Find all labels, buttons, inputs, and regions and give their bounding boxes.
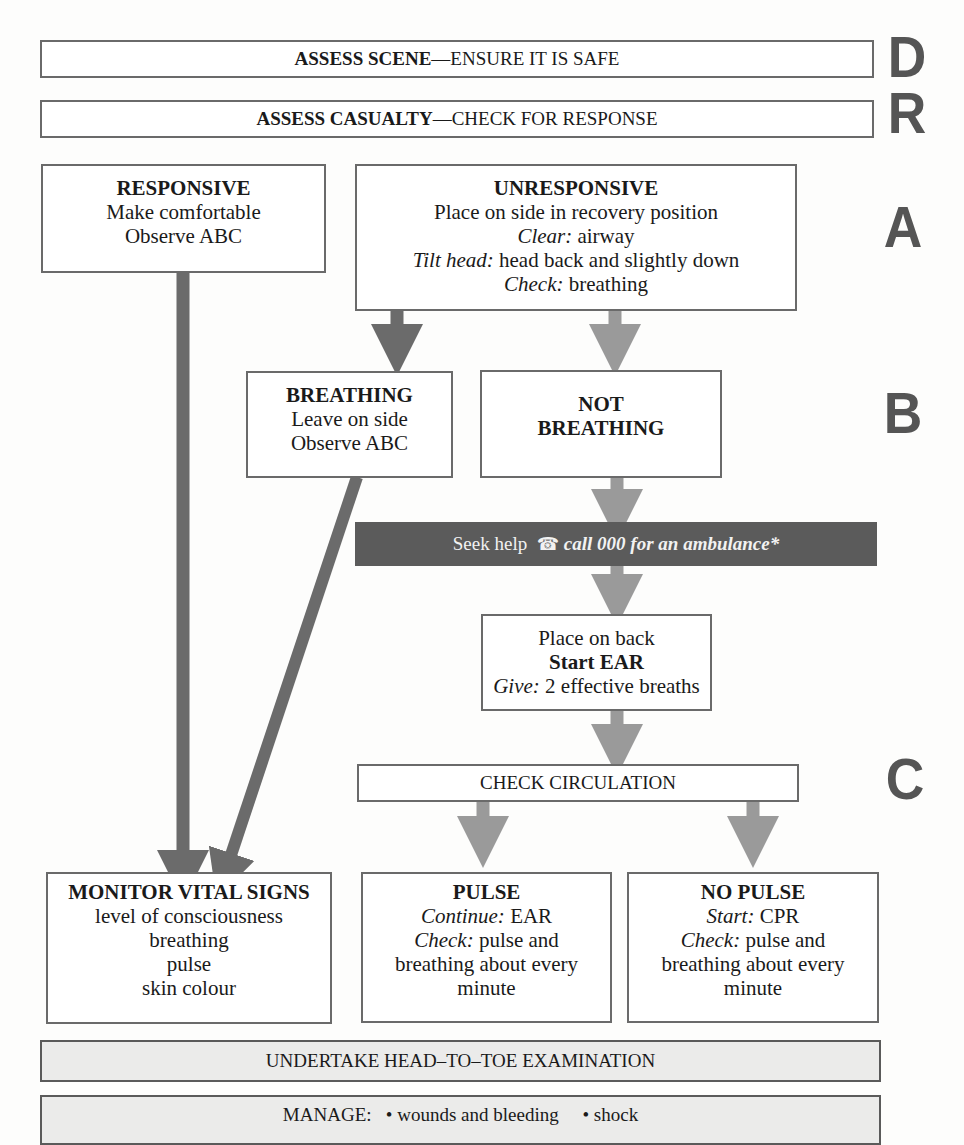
clear-value: airway — [572, 224, 634, 248]
pulse-line: minute — [363, 976, 610, 1000]
breathing-title: BREATHING — [248, 383, 451, 407]
head-to-toe-box: UNDERTAKE HEAD–TO–TOE EXAMINATION — [40, 1040, 881, 1082]
give-value: 2 effective breaths — [540, 674, 700, 698]
step-letter-d: D — [888, 28, 927, 86]
start-ear-box: Place on back Start EAR Give: 2 effectiv… — [481, 614, 712, 711]
start-label: Start: — [707, 904, 755, 928]
check-label: Check: — [414, 928, 473, 952]
assess-casualty-box: ASSESS CASUALTY—CHECK FOR RESPONSE — [40, 100, 874, 138]
tilt-label: Tilt head: — [413, 248, 494, 272]
monitor-title: MONITOR VITAL SIGNS — [48, 880, 330, 904]
ear-line1: Place on back — [483, 626, 710, 650]
call-ambulance-text: call 000 for an ambulance* — [564, 533, 779, 554]
step-letter-c: C — [886, 750, 925, 808]
check-circulation-text: CHECK CIRCULATION — [359, 771, 797, 795]
pulse-line: breathing about every — [363, 952, 610, 976]
pulse-title: PULSE — [363, 880, 610, 904]
seek-help-label: Seek help — [453, 533, 527, 554]
step-letter-a: A — [884, 198, 923, 256]
no-pulse-line: breathing about every — [629, 952, 877, 976]
manage-item: • wounds and bleeding — [386, 1104, 559, 1125]
arrow-breathing-to-monitor — [224, 477, 357, 876]
monitor-line: pulse — [48, 952, 330, 976]
assess-casualty-text: —CHECK FOR RESPONSE — [433, 108, 658, 129]
assess-scene-box: ASSESS SCENE—ENSURE IT IS SAFE — [40, 40, 874, 78]
monitor-line: skin colour — [48, 976, 330, 1000]
ear-title: Start EAR — [483, 650, 710, 674]
breathing-line: Observe ABC — [248, 431, 451, 455]
continue-value: EAR — [505, 904, 552, 928]
unresponsive-title: UNRESPONSIVE — [357, 176, 795, 200]
check-value: pulse and — [474, 928, 559, 952]
step-letter-b: B — [884, 384, 923, 442]
not-breathing-box: NOT BREATHING — [480, 370, 722, 478]
responsive-box: RESPONSIVE Make comfortable Observe ABC — [41, 164, 326, 273]
not-breathing-line2: BREATHING — [482, 416, 720, 440]
monitor-line: level of consciousness — [48, 904, 330, 928]
not-breathing-line1: NOT — [482, 392, 720, 416]
manage-label: MANAGE: — [283, 1104, 372, 1125]
manage-box: MANAGE: • wounds and bleeding • shock — [40, 1095, 881, 1145]
check-circulation-box: CHECK CIRCULATION — [357, 764, 799, 802]
continue-label: Continue: — [421, 904, 505, 928]
no-pulse-line: minute — [629, 976, 877, 1000]
start-value: CPR — [754, 904, 799, 928]
seek-help-banner: Seek help ☎ call 000 for an ambulance* — [355, 522, 877, 566]
breathing-line: Leave on side — [248, 407, 451, 431]
responsive-line: Observe ABC — [43, 224, 324, 248]
check-label: Check: — [504, 272, 563, 296]
unresponsive-line: Place on side in recovery position — [357, 200, 795, 224]
check-label: Check: — [681, 928, 740, 952]
assess-casualty-title: ASSESS CASUALTY — [256, 108, 432, 129]
assess-scene-title: ASSESS SCENE — [295, 48, 432, 69]
breathing-box: BREATHING Leave on side Observe ABC — [246, 371, 453, 478]
pulse-box: PULSE Continue: EAR Check: pulse and bre… — [361, 872, 612, 1023]
manage-item: • shock — [582, 1104, 638, 1125]
tilt-value: head back and slightly down — [494, 248, 740, 272]
monitor-line: breathing — [48, 928, 330, 952]
telephone-icon: ☎ — [537, 533, 559, 554]
unresponsive-box: UNRESPONSIVE Place on side in recovery p… — [355, 164, 797, 311]
clear-label: Clear: — [517, 224, 572, 248]
monitor-vital-signs-box: MONITOR VITAL SIGNS level of consciousne… — [46, 872, 332, 1024]
give-label: Give: — [493, 674, 540, 698]
check-value: pulse and — [740, 928, 825, 952]
check-value: breathing — [563, 272, 648, 296]
responsive-line: Make comfortable — [43, 200, 324, 224]
head-to-toe-text: UNDERTAKE HEAD–TO–TOE EXAMINATION — [42, 1049, 879, 1073]
assess-scene-text: —ENSURE IT IS SAFE — [431, 48, 619, 69]
step-letter-r: R — [888, 84, 927, 142]
no-pulse-title: NO PULSE — [629, 880, 877, 904]
no-pulse-box: NO PULSE Start: CPR Check: pulse and bre… — [627, 872, 879, 1023]
responsive-title: RESPONSIVE — [43, 176, 324, 200]
